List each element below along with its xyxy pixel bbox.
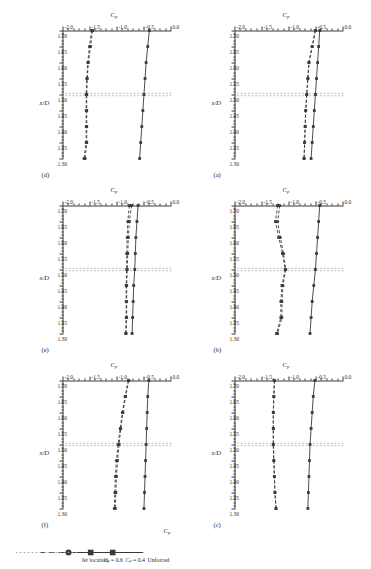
y-tick-major: [342, 26, 343, 30]
y-tick-major: [261, 201, 262, 205]
legend-item-Unforced[interactable]: Unforced: [139, 542, 159, 569]
y-tick-label: -1.0: [118, 198, 127, 204]
panel-label: (d): [41, 170, 49, 177]
legend-title: Cp: [163, 526, 170, 534]
y-tick-major: [143, 201, 144, 205]
y-tick-label: -1.5: [91, 23, 100, 29]
x-tick-major: [231, 78, 235, 79]
x-tick-major: [59, 508, 63, 509]
x-tick-major: [59, 46, 63, 47]
data-point-marker: [310, 45, 313, 48]
data-point-marker: [272, 395, 275, 398]
y-tick-label: -1.0: [118, 23, 127, 29]
y-tick-major: [288, 201, 289, 205]
x-tick-major: [59, 492, 63, 493]
y-tick-label: -2.0: [64, 198, 73, 204]
x-axis-title: x/D: [39, 273, 49, 280]
y-tick-major: [62, 26, 63, 30]
x-tick-major: [59, 317, 63, 318]
x-tick-major: [59, 110, 63, 111]
y-tick-label: -1.5: [263, 23, 272, 29]
y-tick-label: -1.0: [118, 373, 127, 379]
data-point-marker: [84, 125, 87, 128]
y-tick-label: -1.5: [91, 198, 100, 204]
data-point-marker: [271, 411, 274, 414]
panel-label: (c): [213, 520, 220, 527]
y-tick-label: -2.0: [64, 23, 73, 29]
data-point-marker: [114, 459, 117, 462]
x-tick-label: 1.30: [57, 335, 66, 341]
y-tick-label: -0.5: [145, 23, 154, 29]
panel-grid: 1.701.651.601.551.501.451.401.351.300.0-…: [0, 0, 371, 569]
x-axis-title: x/D: [39, 448, 49, 455]
data-point-marker: [87, 45, 90, 48]
x-tick-major: [59, 269, 63, 270]
x-tick-label: 1.30: [229, 160, 238, 166]
data-point-marker: [126, 220, 129, 223]
panel-f: 1.701.651.601.551.501.451.401.351.300.0-…: [63, 380, 171, 508]
y-tick-label: -0.5: [145, 198, 154, 204]
data-point-marker: [271, 427, 274, 430]
y-tick-label: -1.5: [263, 198, 272, 204]
x-tick-major: [231, 253, 235, 254]
series-line-C06: [304, 30, 315, 158]
figure-canvas: 1.701.651.601.551.501.451.401.351.300.0-…: [0, 0, 371, 569]
y-tick-label: -0.5: [317, 198, 326, 204]
y-tick-label: -2.0: [236, 23, 245, 29]
x-tick-major: [59, 476, 63, 477]
y-tick-label: -1.0: [290, 373, 299, 379]
data-point-marker: [113, 491, 116, 494]
series-line-C04: [304, 30, 315, 158]
y-tick-label: 0.0: [172, 198, 179, 204]
x-tick-major: [231, 46, 235, 47]
x-tick-major: [231, 492, 235, 493]
legend: CpUnforcedCμ = 0.4Cμ = 0.6Jet location: [45, 542, 165, 569]
x-tick-major: [59, 333, 63, 334]
panel-c: 1.701.651.601.551.501.451.401.351.300.0-…: [235, 380, 343, 508]
y-tick-major: [342, 376, 343, 380]
data-point-marker: [125, 252, 128, 255]
x-tick-major: [231, 110, 235, 111]
x-axis-title: x/D: [211, 98, 221, 105]
panel-label: (e): [41, 345, 48, 352]
x-tick-major: [231, 269, 235, 270]
y-tick-major: [143, 376, 144, 380]
x-tick-major: [231, 508, 235, 509]
y-tick-label: -2.0: [64, 373, 73, 379]
y-tick-major: [342, 201, 343, 205]
y-tick-label: 0.0: [172, 23, 179, 29]
legend-item-C04[interactable]: Cμ = 0.4: [117, 542, 137, 569]
series-line-C06: [114, 380, 128, 508]
y-tick-label: -2.0: [236, 198, 245, 204]
x-tick-major: [59, 396, 63, 397]
legend-item-Jetlocation[interactable]: Jet location: [73, 542, 93, 569]
x-tick-major: [231, 126, 235, 127]
x-tick-major: [59, 237, 63, 238]
y-tick-major: [234, 201, 235, 205]
y-tick-major: [89, 376, 90, 380]
x-tick-label: 1.30: [229, 510, 238, 516]
data-point-marker: [124, 284, 127, 287]
x-tick-major: [231, 412, 235, 413]
x-tick-major: [231, 460, 235, 461]
data-point-marker: [272, 459, 275, 462]
y-tick-major: [234, 376, 235, 380]
x-tick-major: [231, 396, 235, 397]
y-axis-title: Cp: [110, 10, 117, 18]
y-tick-major: [288, 376, 289, 380]
x-tick-label: 1.30: [229, 335, 238, 341]
data-point-marker: [112, 507, 115, 510]
y-tick-major: [234, 26, 235, 30]
data-point-marker: [304, 109, 307, 112]
legend-item-C06[interactable]: Cμ = 0.6: [95, 542, 115, 569]
x-tick-major: [231, 221, 235, 222]
plot-lines: [63, 380, 171, 508]
plot-lines: [63, 205, 171, 333]
plot-lines: [63, 30, 171, 158]
y-tick-label: -1.5: [91, 373, 100, 379]
multi-panel-figure: 1.701.651.601.551.501.451.401.351.300.0-…: [0, 0, 371, 569]
y-tick-major: [261, 26, 262, 30]
x-tick-major: [59, 142, 63, 143]
y-tick-major: [116, 201, 117, 205]
x-axis-title: x/D: [39, 98, 49, 105]
